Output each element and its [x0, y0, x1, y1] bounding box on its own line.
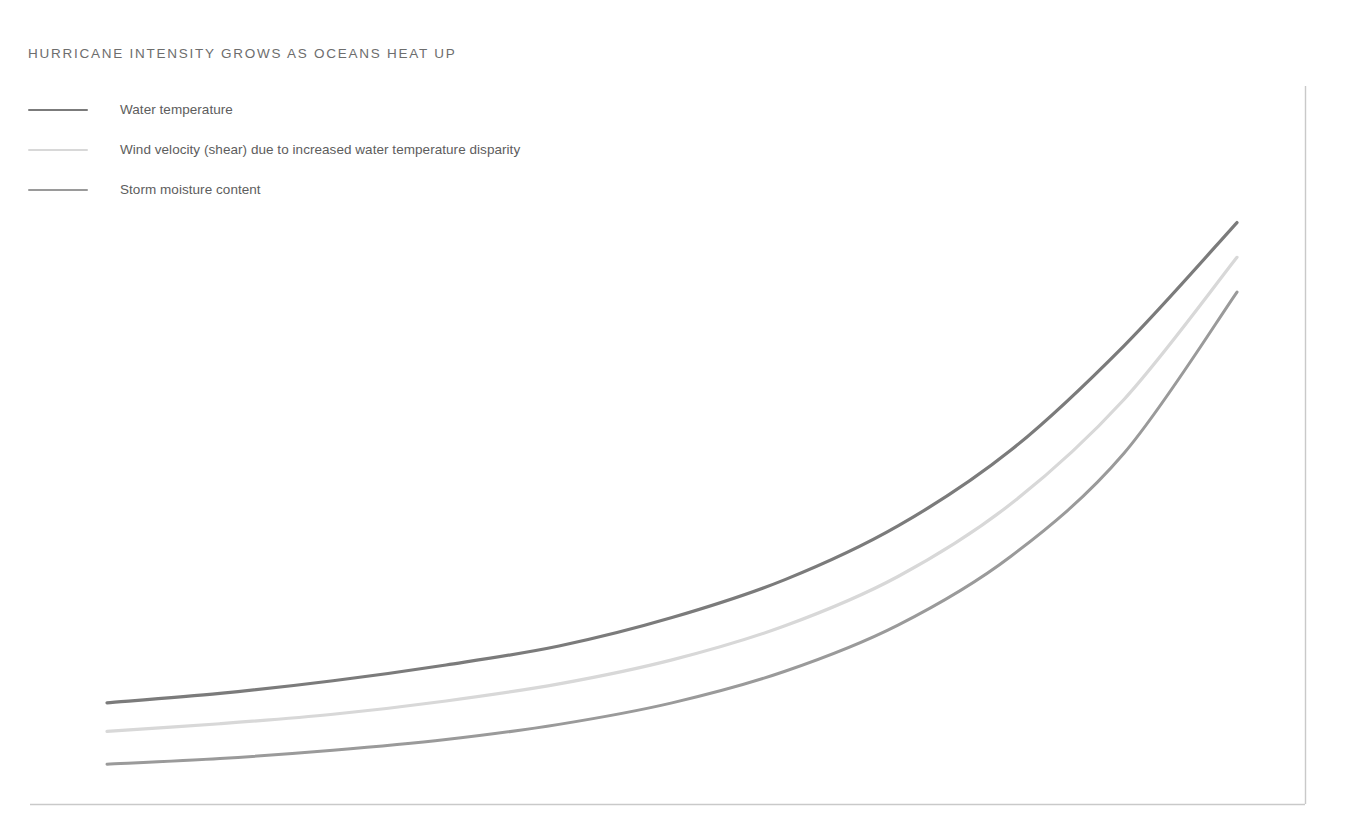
- series-line: [107, 257, 1237, 731]
- chart-page: HURRICANE INTENSITY GROWS AS OCEANS HEAT…: [0, 0, 1369, 828]
- plot-area: [0, 0, 1369, 828]
- series-group: [107, 223, 1237, 765]
- series-line: [107, 292, 1237, 764]
- line-chart-svg: [0, 0, 1369, 828]
- axes: [30, 86, 1306, 805]
- series-line: [107, 223, 1237, 703]
